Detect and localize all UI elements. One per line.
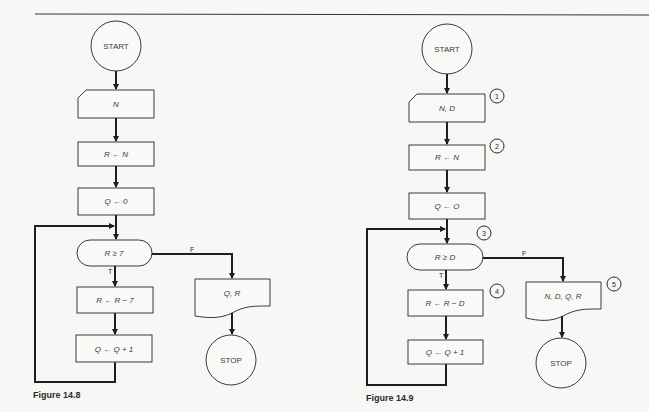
start-label: START: [434, 45, 460, 54]
process-assign-r: R ← N: [78, 142, 154, 166]
output-label: N, D, Q, R: [545, 292, 582, 301]
process-increment: Q ← Q + 1: [408, 340, 483, 364]
svg-text:5: 5: [612, 281, 616, 288]
assign-q-label: Q ← 0: [104, 197, 128, 206]
top-rule: [35, 14, 649, 15]
step-number-2: 2: [490, 139, 504, 153]
svg-text:2: 2: [495, 143, 499, 150]
true-branch-label: T: [108, 268, 113, 275]
increment-label: Q ← Q + 1: [95, 345, 133, 354]
arrow-false-branch: [483, 258, 563, 281]
start-label: START: [103, 42, 129, 51]
process-subtract: R ← R − D: [408, 290, 483, 316]
decision-node: R ≥ D: [407, 244, 483, 270]
figure-caption: Figure 14.8: [33, 390, 81, 400]
decision-label: R ≥ D: [435, 253, 456, 262]
assign-r-label: R ← N: [104, 150, 128, 159]
svg-text:4: 4: [495, 288, 499, 295]
output-label: Q, R: [224, 289, 241, 298]
increment-label: Q ← Q + 1: [426, 348, 464, 357]
decision-node: R ≥ 7: [77, 240, 152, 266]
stop-terminal: STOP: [206, 335, 256, 385]
decision-label: R ≥ 7: [104, 249, 124, 258]
process-assign-r: R ← N: [409, 145, 485, 170]
input-label: N, D: [439, 104, 455, 113]
step-number-1: 1: [490, 89, 504, 103]
start-terminal: START: [91, 21, 141, 71]
step-number-4: 4: [490, 284, 504, 298]
figure-14-9: START N, D 1 R ← N 2 Q ← O: [366, 24, 621, 403]
stop-label: STOP: [220, 356, 242, 365]
subtract-label: R ← R − D: [426, 299, 465, 308]
figure-caption: Figure 14.9: [366, 393, 414, 403]
stop-terminal: STOP: [536, 338, 586, 388]
process-subtract: R ← R − 7: [77, 287, 153, 313]
subtract-label: R ← R − 7: [96, 296, 134, 305]
input-label: N: [113, 100, 119, 109]
assign-q-label: Q ← O: [435, 202, 460, 211]
false-branch-label: F: [190, 246, 194, 253]
svg-text:1: 1: [495, 93, 499, 100]
process-assign-q: Q ← O: [409, 193, 485, 219]
output-node: N, D, Q, R: [526, 282, 601, 320]
assign-r-label: R ← N: [435, 153, 459, 162]
arrow-false-branch: [152, 254, 232, 278]
stop-label: STOP: [550, 359, 572, 368]
process-assign-q: Q ← 0: [78, 188, 154, 215]
input-node: N: [78, 90, 154, 118]
false-branch-label: F: [522, 250, 526, 257]
process-increment: Q ← Q + 1: [76, 335, 152, 362]
output-node: Q, R: [195, 279, 270, 318]
step-number-3: 3: [477, 226, 491, 240]
figure-14-8: START N R ← N Q ← 0 R ≥ 7 T: [33, 21, 270, 400]
flowchart-page: START N R ← N Q ← 0 R ≥ 7 T: [0, 0, 649, 412]
true-branch-label: T: [439, 272, 444, 279]
start-terminal: START: [422, 24, 472, 74]
step-number-5: 5: [607, 277, 621, 291]
svg-text:3: 3: [482, 230, 486, 237]
input-node: N, D: [409, 94, 485, 122]
